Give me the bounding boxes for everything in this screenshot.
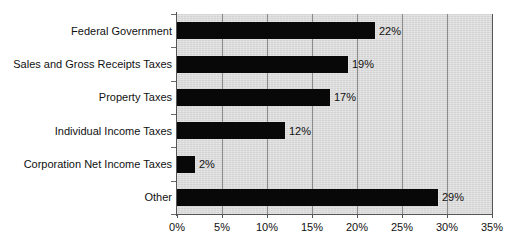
- y-tick-6: [171, 214, 176, 215]
- category-label-wrap-4: Corporation Net Income Taxes: [0, 158, 172, 170]
- bar-value-label-5: 29%: [442, 191, 464, 203]
- x-axis-line: [176, 214, 493, 215]
- bar-chart: Federal GovernmentSales and Gross Receip…: [0, 0, 516, 252]
- y-tick-0: [171, 14, 176, 15]
- category-label-2: Property Taxes: [2, 91, 172, 103]
- bar-value-label-1: 19%: [352, 58, 374, 70]
- category-label-3: Individual Income Taxes: [2, 125, 172, 137]
- gridline-30%: [447, 14, 448, 214]
- category-label-wrap-3: Individual Income Taxes: [0, 125, 172, 137]
- x-tick-5%: [222, 214, 223, 218]
- category-label-wrap-0: Federal Government: [0, 25, 172, 37]
- gridline-10%: [267, 14, 268, 214]
- x-tick-label-10%: 10%: [244, 221, 290, 233]
- y-tick-5: [171, 181, 176, 182]
- bar-value-label-3: 12%: [289, 125, 311, 137]
- x-tick-label-5%: 5%: [199, 221, 245, 233]
- bar-2: [177, 89, 330, 106]
- gridline-5%: [222, 14, 223, 214]
- gridline-25%: [402, 14, 403, 214]
- category-label-wrap-2: Property Taxes: [0, 91, 172, 103]
- x-tick-label-20%: 20%: [334, 221, 380, 233]
- y-tick-3: [171, 114, 176, 115]
- bar-0: [177, 22, 375, 39]
- category-label-5: Other: [2, 191, 172, 203]
- x-tick-label-0%: 0%: [154, 221, 200, 233]
- bar-3: [177, 122, 285, 139]
- y-axis-line: [176, 12, 177, 216]
- x-tick-20%: [357, 214, 358, 218]
- y-tick-2: [171, 81, 176, 82]
- x-tick-label-30%: 30%: [424, 221, 470, 233]
- category-label-4: Corporation Net Income Taxes: [2, 158, 172, 170]
- y-tick-1: [171, 47, 176, 48]
- x-tick-30%: [447, 214, 448, 218]
- category-label-wrap-1: Sales and Gross Receipts Taxes: [0, 58, 172, 70]
- bar-value-label-4: 2%: [199, 158, 215, 170]
- bar-value-label-2: 17%: [334, 91, 356, 103]
- plot-area: [177, 14, 492, 214]
- category-label-0: Federal Government: [2, 25, 172, 37]
- y-tick-4: [171, 147, 176, 148]
- bar-value-label-0: 22%: [379, 25, 401, 37]
- gridline-20%: [357, 14, 358, 214]
- x-tick-10%: [267, 214, 268, 218]
- plot-texture: [177, 14, 492, 214]
- x-tick-label-25%: 25%: [379, 221, 425, 233]
- category-label-1: Sales and Gross Receipts Taxes: [2, 58, 172, 70]
- x-tick-35%: [492, 214, 493, 218]
- x-tick-25%: [402, 214, 403, 218]
- x-tick-0%: [177, 214, 178, 218]
- gridline-35%: [492, 14, 493, 214]
- bar-5: [177, 189, 438, 206]
- x-tick-label-35%: 35%: [469, 221, 515, 233]
- bar-4: [177, 156, 195, 173]
- category-label-wrap-5: Other: [0, 191, 172, 203]
- x-tick-15%: [312, 214, 313, 218]
- gridline-15%: [312, 14, 313, 214]
- x-tick-label-15%: 15%: [289, 221, 335, 233]
- bar-1: [177, 56, 348, 73]
